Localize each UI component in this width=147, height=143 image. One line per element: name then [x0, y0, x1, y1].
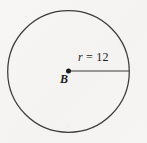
radius-equals-label: =: [86, 50, 93, 64]
radius-value-label: 12: [96, 50, 108, 64]
radius-label: r = 12: [78, 51, 109, 63]
circle-diagram-svg: [0, 0, 147, 143]
center-point-label: B: [60, 73, 68, 85]
circle-diagram-figure: r = 12 B: [0, 0, 147, 143]
